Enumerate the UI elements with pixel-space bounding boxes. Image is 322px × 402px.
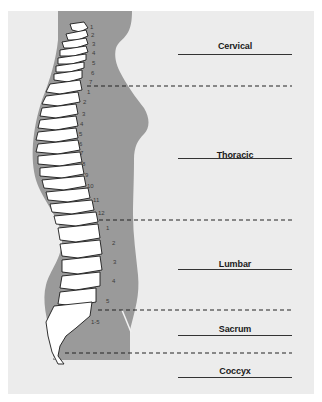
vertebra-number: 5: [106, 298, 109, 304]
vertebra-number: 4: [92, 50, 95, 56]
vertebra-number: 4: [112, 278, 115, 284]
vertebra-number: 1: [90, 24, 93, 30]
region-label-cervical: Cervical: [178, 41, 292, 51]
vertebra-number: 10: [87, 183, 94, 189]
spine-illustration: [0, 0, 322, 402]
label-underline: [178, 269, 292, 270]
vertebra-number: 1: [87, 89, 90, 95]
vertebra-number: 12: [98, 210, 105, 216]
vertebra-number: 7: [80, 150, 83, 156]
vertebra-number: 6: [79, 141, 82, 147]
label-underline: [178, 158, 292, 159]
label-underline: [178, 335, 292, 336]
vertebra-number: 7: [89, 79, 92, 85]
vertebra-number: 3: [92, 41, 95, 47]
label-underline: [178, 377, 292, 378]
vertebra-number: 4: [80, 121, 83, 127]
region-label-coccyx: Coccyx: [178, 366, 292, 376]
vertebra-number: 5: [92, 60, 95, 66]
vertebra-number: 2: [112, 240, 115, 246]
vertebra-number: 3: [82, 111, 85, 117]
vertebra-number: 9: [85, 172, 88, 178]
vertebra-number: 11: [93, 197, 99, 203]
label-underline: [178, 54, 292, 55]
vertebra-number: 8: [82, 161, 85, 167]
vertebra-number: 6: [91, 70, 94, 76]
vertebra-number: 1-5: [91, 319, 100, 325]
vertebra-number: 3: [113, 259, 116, 265]
region-label-sacrum: Sacrum: [178, 324, 292, 334]
region-label-lumbar: Lumbar: [178, 259, 292, 269]
vertebra-number: 5: [79, 131, 82, 137]
vertebra-number: 2: [83, 99, 86, 105]
vertebra-number: 2: [91, 32, 94, 38]
vertebra-number: 1: [106, 225, 109, 231]
